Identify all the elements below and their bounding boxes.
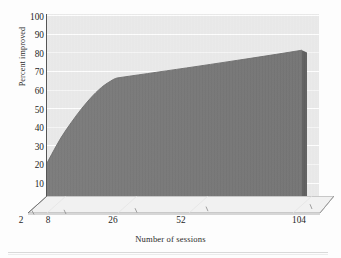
y-tick-label: 60 xyxy=(20,87,44,96)
x-tick-label: 104 xyxy=(292,216,306,225)
x-axis-label: Number of sessions xyxy=(0,234,341,244)
x-axis-ticks: 2 8 26 52 104 xyxy=(0,216,341,232)
y-tick-label: 70 xyxy=(20,68,44,77)
y-tick-label: 30 xyxy=(20,143,44,152)
x-tick-label: 8 xyxy=(46,216,51,225)
y-tick-label: 80 xyxy=(20,50,44,59)
figure-area-chart: Percent improved 100 90 80 70 60 50 40 3… xyxy=(0,0,341,258)
area-series-percent-improved xyxy=(47,14,319,200)
page-separator-line-secondary xyxy=(8,254,328,255)
y-tick-label: 50 xyxy=(20,106,44,115)
x-tick-label: 52 xyxy=(176,216,185,225)
y-tick-label: 20 xyxy=(20,161,44,170)
page-separator-line xyxy=(8,252,328,253)
y-axis-line xyxy=(46,14,47,201)
plot-area xyxy=(47,14,319,200)
x-tick-label: 26 xyxy=(108,216,117,225)
y-tick-label: 10 xyxy=(20,180,44,189)
y-tick-label: 90 xyxy=(20,31,44,40)
y-tick-label: 100 xyxy=(20,13,44,22)
y-tick-label: 40 xyxy=(20,124,44,133)
x-tick-label: 2 xyxy=(19,216,24,225)
